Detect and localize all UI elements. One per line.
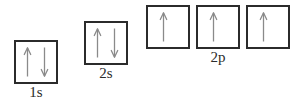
spin-arrow-up-2p-0-0 bbox=[157, 12, 170, 42]
orbital-label-2p: 2p bbox=[196, 50, 240, 65]
spin-arrow-up-2p-2-0 bbox=[257, 12, 270, 42]
spin-arrow-up-2p-1-0 bbox=[207, 12, 220, 42]
orbital-diagram: 1s 2s 2p bbox=[0, 0, 299, 107]
spin-arrow-down-2s-0-1 bbox=[108, 28, 121, 58]
spin-arrow-up-1s-0-0 bbox=[21, 47, 34, 77]
orbital-label-1s: 1s bbox=[14, 85, 58, 100]
orbital-label-2s: 2s bbox=[84, 66, 128, 81]
spin-arrow-down-1s-0-1 bbox=[38, 47, 51, 77]
spin-arrow-up-2s-0-0 bbox=[91, 28, 104, 58]
